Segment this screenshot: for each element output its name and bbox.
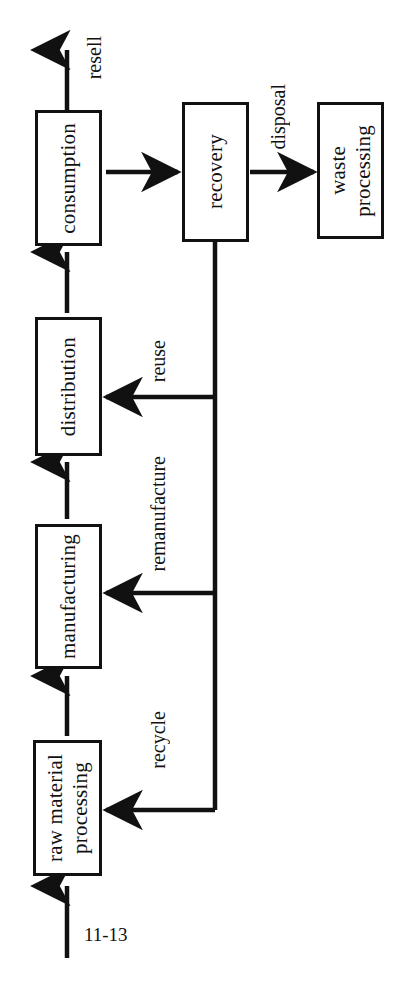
edge-label-recycle: recycle (148, 711, 168, 769)
figure-number: 11-13 (84, 925, 128, 944)
node-manufacturing[interactable]: manufacturing (35, 524, 102, 669)
node-raw-material-processing[interactable]: raw material processing (33, 740, 102, 876)
node-consumption-label: consumption (56, 123, 81, 234)
node-manufacturing-label: manufacturing (56, 534, 81, 659)
node-distribution[interactable]: distribution (35, 317, 102, 456)
edge-label-disposal: disposal (268, 84, 288, 150)
node-recovery[interactable]: recovery (182, 102, 249, 242)
edge-label-resell: resell (84, 36, 104, 79)
node-waste-processing[interactable]: waste processing (317, 102, 384, 239)
node-consumption[interactable]: consumption (35, 110, 102, 246)
node-waste-processing-label: waste processing (326, 125, 376, 217)
node-distribution-label: distribution (56, 337, 81, 436)
figure-canvas: consumption recovery waste processing di… (0, 0, 396, 998)
node-raw-material-processing-label: raw material processing (43, 754, 93, 862)
edge-label-remanufacture: remanufacture (148, 456, 168, 571)
node-recovery-label: recovery (203, 134, 228, 209)
edge-label-reuse: reuse (148, 340, 168, 382)
